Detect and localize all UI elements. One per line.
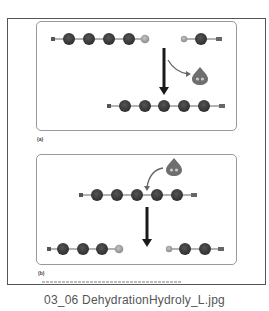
reaction-diagram bbox=[0, 0, 269, 311]
panel-label-b: (b) bbox=[38, 270, 44, 276]
polymer-chain-product bbox=[107, 100, 225, 112]
h-cap-icon bbox=[166, 246, 172, 252]
h-cap-icon bbox=[107, 104, 111, 108]
monomer-icon bbox=[171, 189, 183, 201]
polymer-chain-reactant-1 bbox=[51, 33, 149, 45]
oh-cap-icon bbox=[218, 247, 224, 251]
arrow-head-icon bbox=[142, 239, 152, 247]
monomer-icon bbox=[151, 189, 163, 201]
water-insertion-arrow bbox=[144, 168, 163, 191]
reaction-arrow-down bbox=[159, 48, 169, 95]
panel-label-a: (a) bbox=[37, 136, 43, 142]
reaction-arrow-down-b bbox=[142, 207, 152, 247]
monomer-icon bbox=[63, 33, 75, 45]
image-caption: 03_06 DehydrationHydroly_L.jpg bbox=[0, 293, 269, 307]
monomer-icon bbox=[199, 243, 211, 255]
monomer-icon bbox=[91, 189, 103, 201]
monomer-icon bbox=[111, 189, 123, 201]
monomer-reactant-2 bbox=[181, 33, 222, 45]
monomer-icon bbox=[178, 100, 190, 112]
monomer-icon bbox=[77, 243, 89, 255]
monomer-icon bbox=[179, 243, 191, 255]
monomer-icon bbox=[103, 33, 115, 45]
arrow-head-icon bbox=[159, 87, 169, 95]
h-cap-icon bbox=[79, 193, 83, 197]
polymer-chain-product-b1 bbox=[47, 243, 123, 255]
monomer-icon bbox=[198, 100, 210, 112]
oh-cap-icon bbox=[141, 35, 150, 44]
copyright-line bbox=[42, 281, 182, 283]
oh-cap-icon bbox=[219, 104, 225, 108]
monomer-icon bbox=[139, 100, 151, 112]
water-droplet-icon-b bbox=[166, 158, 182, 176]
polymer-chain-product-b2 bbox=[166, 243, 224, 255]
monomer-icon bbox=[123, 33, 135, 45]
water-release-arrow bbox=[168, 60, 191, 77]
oh-cap-icon bbox=[191, 193, 197, 197]
h-cap-icon bbox=[47, 247, 51, 251]
h-cap-icon bbox=[181, 36, 187, 42]
monomer-icon bbox=[131, 189, 143, 201]
monomer-icon bbox=[158, 100, 170, 112]
oh-cap-icon bbox=[115, 245, 124, 254]
oh-cap-icon bbox=[216, 37, 222, 41]
monomer-icon bbox=[96, 243, 108, 255]
monomer-icon bbox=[119, 100, 131, 112]
monomer-icon bbox=[195, 33, 207, 45]
water-droplet-icon bbox=[192, 67, 208, 85]
polymer-chain-reactant-b bbox=[79, 189, 197, 201]
monomer-icon bbox=[83, 33, 95, 45]
h-cap-icon bbox=[51, 37, 55, 41]
monomer-icon bbox=[57, 243, 69, 255]
